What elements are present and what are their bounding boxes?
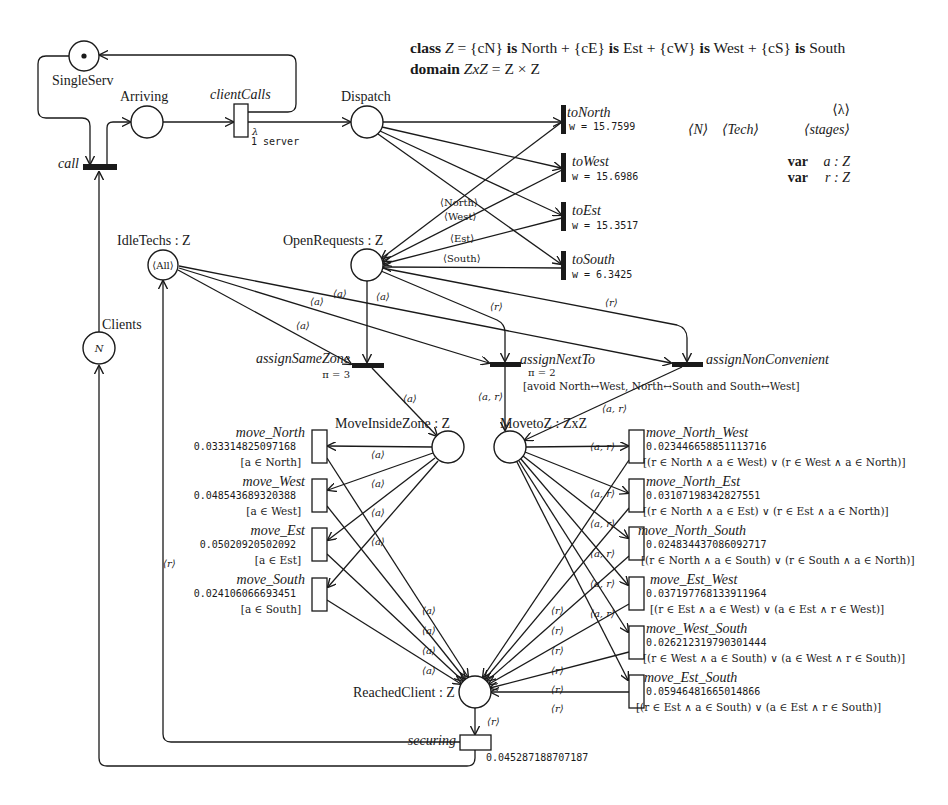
svg-text:⟨a⟩: ⟨a⟩ xyxy=(371,478,385,489)
transition-move-west[interactable]: move_West 0.048543689320388 [a ∈ West] xyxy=(194,474,327,517)
svg-text:IdleTechs : Z: IdleTechs : Z xyxy=(117,233,191,248)
svg-text:⟨a⟩: ⟨a⟩ xyxy=(422,625,436,636)
svg-text:move_Est_South: move_Est_South xyxy=(644,670,737,685)
transition-move-est[interactable]: move_Est 0.05020920502092 [a ∈ Est] xyxy=(200,523,327,566)
svg-text:⟨r⟩: ⟨r⟩ xyxy=(487,716,500,727)
place-idle-techs[interactable]: ⟨All⟩ IdleTechs : Z xyxy=(117,233,191,280)
svg-text:call: call xyxy=(58,156,79,171)
svg-text:[a ∈ South]: [a ∈ South] xyxy=(241,603,301,615)
svg-text:⟨Est⟩: ⟨Est⟩ xyxy=(450,233,474,244)
svg-text:clientCalls: clientCalls xyxy=(210,87,271,102)
petri-net-diagram: class Z = {cN} is North + {cE} is Est + … xyxy=(0,0,948,805)
svg-text:⟨a⟩: ⟨a⟩ xyxy=(422,605,436,616)
transition-to-north[interactable]: toNorth w = 15.7599 xyxy=(561,105,635,134)
svg-text:⟨All⟩: ⟨All⟩ xyxy=(152,260,174,271)
svg-text:[(r ∈ Est ∧ a ∈ South) ∨ (a ∈: [(r ∈ Est ∧ a ∈ South) ∨ (a ∈ Est ∧ r ∈ … xyxy=(636,701,881,713)
domain-definition: domain ZxZ = Z × Z xyxy=(410,60,540,77)
svg-text:⟨a, r⟩: ⟨a, r⟩ xyxy=(478,391,503,402)
svg-text:Dispatch: Dispatch xyxy=(341,89,391,104)
svg-text:move_North: move_North xyxy=(236,425,305,440)
svg-text:[(r ∈ West ∧ a ∈ South) ∨ (a ∈: [(r ∈ West ∧ a ∈ South) ∨ (a ∈ West ∧ r … xyxy=(643,652,905,664)
transition-move-north-est[interactable]: move_North_Est 0.03107198342827551 [(r ∈… xyxy=(629,474,889,517)
transition-client-calls[interactable]: clientCalls λ 1 server xyxy=(210,87,299,147)
transition-to-south[interactable]: toSouth w = 6.3425 xyxy=(561,251,632,280)
token-icon xyxy=(81,53,86,58)
svg-text:move_South: move_South xyxy=(237,572,305,587)
transition-assign-non-convenient[interactable]: assignNonConvenient xyxy=(672,352,830,367)
svg-text:⟨r⟩: ⟨r⟩ xyxy=(551,703,564,714)
transition-move-west-south[interactable]: move_West_South 0.026212319790301444 [(r… xyxy=(629,621,905,664)
transition-to-west[interactable]: toWest w = 15.6986 xyxy=(561,153,638,182)
class-definition: class Z = {cN} is North + {cE} is Est + … xyxy=(410,39,846,77)
svg-text:[a ∈ North]: [a ∈ North] xyxy=(241,456,301,468)
transition-move-est-west[interactable]: move_Est_West 0.037197768133911964 [(r ∈… xyxy=(629,572,884,615)
svg-text:Clients: Clients xyxy=(102,317,142,332)
svg-text:[a ∈ Est]: [a ∈ Est] xyxy=(255,554,301,566)
svg-text:π = 3: π = 3 xyxy=(322,369,350,380)
svg-text:⟨r⟩: ⟨r⟩ xyxy=(551,665,564,676)
svg-text:⟨a⟩: ⟨a⟩ xyxy=(422,665,436,676)
svg-text:⟨North⟩: ⟨North⟩ xyxy=(440,197,478,208)
svg-text:0.03107198342827551: 0.03107198342827551 xyxy=(646,490,760,501)
svg-text:0.05946481665014866: 0.05946481665014866 xyxy=(646,686,760,697)
svg-text:⟨a⟩: ⟨a⟩ xyxy=(376,291,390,302)
tech-param: ⟨Tech⟩ xyxy=(722,122,759,137)
svg-text:⟨South⟩: ⟨South⟩ xyxy=(443,253,481,264)
svg-text:⟨a⟩: ⟨a⟩ xyxy=(371,507,385,518)
svg-text:move_Est_West: move_Est_West xyxy=(650,572,738,587)
place-dispatch[interactable]: Dispatch xyxy=(341,89,391,138)
transition-move-north-west[interactable]: move_North_West 0.023446658851113716 [(r… xyxy=(629,425,906,468)
svg-text:assignNextTo: assignNextTo xyxy=(520,352,595,367)
svg-text:⟨a, r⟩: ⟨a, r⟩ xyxy=(590,578,615,589)
svg-text:assignSameZone: assignSameZone xyxy=(256,351,350,366)
transition-call[interactable]: call xyxy=(58,156,117,171)
lambda-param: ⟨λ⟩ xyxy=(832,102,850,117)
svg-text:⟨r⟩: ⟨r⟩ xyxy=(605,297,618,308)
svg-text:toSouth: toSouth xyxy=(572,252,615,267)
svg-text:move_Est: move_Est xyxy=(251,523,307,538)
place-clients[interactable]: N Clients xyxy=(83,317,142,364)
svg-text:OpenRequests : Z: OpenRequests : Z xyxy=(283,233,383,248)
svg-text:w = 15.3517: w = 15.3517 xyxy=(572,220,638,231)
svg-text:N: N xyxy=(94,343,105,354)
n-param: ⟨N⟩ xyxy=(688,122,708,137)
svg-text:⟨West⟩: ⟨West⟩ xyxy=(444,211,476,222)
place-open-requests[interactable]: OpenRequests : Z xyxy=(283,233,383,281)
svg-text:⟨a, r⟩: ⟨a, r⟩ xyxy=(590,608,615,619)
svg-text:⟨a⟩: ⟨a⟩ xyxy=(310,296,324,307)
svg-text:⟨a, r⟩: ⟨a, r⟩ xyxy=(590,548,615,559)
var-r: r : Z xyxy=(825,170,850,185)
svg-text:[(r ∈ North ∧ a ∈ South) ∨ (r: [(r ∈ North ∧ a ∈ South) ∨ (r ∈ South ∧ … xyxy=(641,554,915,566)
transition-to-est[interactable]: toEst w = 15.3517 xyxy=(561,202,638,231)
svg-text:⟨a⟩: ⟨a⟩ xyxy=(403,393,417,404)
svg-text:⟨r⟩: ⟨r⟩ xyxy=(163,558,176,569)
svg-text:⟨a, r⟩: ⟨a, r⟩ xyxy=(590,441,615,452)
place-reached-client[interactable]: ReachedClient : Z xyxy=(353,676,491,708)
svg-text:⟨r⟩: ⟨r⟩ xyxy=(551,684,564,695)
transition-securing[interactable]: securing 0.045287188707187 xyxy=(408,733,589,763)
transition-assign-same-zone[interactable]: assignSameZone π = 3 xyxy=(256,351,384,380)
var-a: a : Z xyxy=(824,154,851,169)
svg-text:class Z = {cN}: class Z = {cN} is North + {cE} is Est + … xyxy=(410,39,846,56)
place-arriving[interactable]: Arriving xyxy=(120,89,168,138)
svg-text:0.033314825097168: 0.033314825097168 xyxy=(194,441,296,452)
transition-move-est-south[interactable]: move_Est_South 0.05946481665014866 [(r ∈… xyxy=(629,670,881,713)
transition-move-south[interactable]: move_South 0.024106066693451 [a ∈ South] xyxy=(194,572,327,615)
svg-text:[avoid North↔West, North↔South: [avoid North↔West, North↔South and South… xyxy=(523,380,800,392)
var-r-keyword: var xyxy=(788,170,808,185)
svg-text:move_North_Est: move_North_Est xyxy=(646,474,741,489)
transition-move-north-south[interactable]: move_North_South 0.024834437086092717 [(… xyxy=(629,523,915,566)
place-move-to-z[interactable]: MovetoZ : ZxZ xyxy=(494,416,587,463)
svg-text:0.023446658851113716: 0.023446658851113716 xyxy=(646,441,766,452)
place-move-inside-zone[interactable]: MoveInsideZone : Z xyxy=(335,416,464,463)
svg-text:assignNonConvenient: assignNonConvenient xyxy=(706,352,830,367)
transition-move-north[interactable]: move_North 0.033314825097168 [a ∈ North] xyxy=(194,425,327,468)
svg-text:⟨r⟩: ⟨r⟩ xyxy=(551,605,564,616)
svg-text:move_North_West: move_North_West xyxy=(646,425,749,440)
svg-text:[a ∈ West]: [a ∈ West] xyxy=(246,505,301,517)
svg-text:toWest: toWest xyxy=(572,154,610,169)
svg-text:MovetoZ : ZxZ: MovetoZ : ZxZ xyxy=(500,416,587,431)
place-single-serv[interactable]: SingleServ xyxy=(52,41,113,88)
svg-text:w = 6.3425: w = 6.3425 xyxy=(572,269,632,280)
svg-text:0.045287188707187: 0.045287188707187 xyxy=(486,752,588,763)
